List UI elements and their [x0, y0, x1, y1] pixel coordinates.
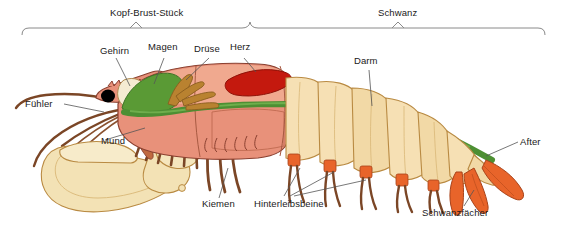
bracket-tick-schwanz [392, 22, 404, 28]
leader-after [486, 142, 518, 156]
swimmeret-base-4 [396, 174, 408, 186]
anatomy-illustration [0, 0, 565, 227]
swimmeret-ray-3b [369, 178, 376, 209]
abdomen-segment-1 [286, 77, 322, 160]
swimmeret-ray-4a [397, 186, 399, 212]
claw-dactyl [60, 141, 138, 163]
swimmeret-ray-2b [333, 172, 340, 206]
leader-fuehler [64, 104, 104, 112]
label-schwanzfaecher: Schwanzfächer [422, 208, 488, 218]
label-herz: Herz [230, 42, 250, 52]
region-label-schwanz: Schwanz [378, 8, 417, 18]
label-darm: Darm [354, 56, 378, 66]
label-fuehler: Fühler [25, 99, 53, 109]
bracket-tick-kopf [130, 22, 142, 28]
bracket-schwanz [258, 28, 545, 35]
label-hinterleibsbeine: Hinterleibsbeine [254, 199, 324, 209]
bracket-kopf-brust-stueck [22, 22, 258, 35]
swimmeret-base-3 [360, 166, 372, 178]
abdomen-segments-group [286, 77, 498, 185]
swimmeret-base-1 [288, 154, 300, 166]
swimmeret-base-5 [428, 180, 439, 191]
region-brackets [22, 22, 545, 35]
swimmeret-base-2 [324, 160, 336, 172]
label-mund: Mund [101, 136, 125, 146]
crayfish-anatomy-figure: Kopf-Brust-Stück Schwanz Gehirn Magen Dr… [0, 0, 565, 227]
label-gehirn: Gehirn [100, 46, 129, 56]
label-kiemen: Kiemen [202, 199, 235, 209]
region-label-kopf-brust-stueck: Kopf-Brust-Stück [110, 8, 183, 18]
label-druese: Drüse [194, 44, 220, 54]
label-magen: Magen [148, 42, 178, 52]
claw-joint-dot [179, 185, 186, 192]
label-after: After [520, 137, 541, 147]
swimmeret-ray-3a [361, 178, 363, 209]
swimmeret-ray-4b [405, 186, 412, 212]
eye [101, 90, 115, 103]
